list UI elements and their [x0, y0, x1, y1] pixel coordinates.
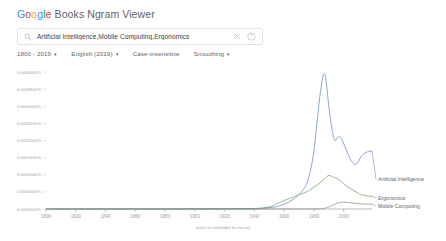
series-leader-line — [372, 204, 376, 206]
x-tick-label: 1960 — [279, 214, 290, 219]
page-title: Google Books Ngram Viewer — [17, 8, 155, 20]
y-tick-label: 0.0000000% — [17, 207, 41, 212]
help-circle-icon[interactable]: ? — [247, 32, 256, 41]
ngram-chart[interactable]: 0.0000000%0.0000500%0.0001000%0.0001500%… — [0, 66, 446, 241]
x-tick-label: 1860 — [130, 214, 141, 219]
y-tick-label: 0.0002000% — [17, 138, 41, 143]
chevron-down-icon: ▾ — [227, 52, 230, 57]
x-tick-label: 1900 — [190, 214, 201, 219]
corpus-selector[interactable]: English (2019) ▾ — [71, 50, 118, 57]
y-tick-label: 0.0004000% — [17, 70, 41, 75]
chevron-down-icon: ▾ — [54, 52, 57, 57]
x-tick-label: 1880 — [160, 214, 171, 219]
y-tick-label: 0.0001500% — [17, 155, 41, 160]
series-line[interactable] — [46, 175, 372, 209]
app-header: Google Books Ngram Viewer — [17, 8, 155, 20]
chart-canvas[interactable]: 0.0000000%0.0000500%0.0001000%0.0001500%… — [0, 66, 446, 241]
series-legend[interactable]: Artificial IntelligenceErgonomicsMobile … — [378, 176, 424, 209]
chart-hint-text: (click on line/label for focus) — [196, 225, 251, 230]
series-label[interactable]: Artificial Intelligence — [378, 176, 424, 182]
x-tick-label: 2000 — [339, 214, 350, 219]
x-tick-label: 1820 — [71, 214, 82, 219]
x-tick-label: 1940 — [249, 214, 260, 219]
date-range-selector[interactable]: 1800 - 2019 ▾ — [17, 50, 57, 57]
x-tick-label: 1840 — [100, 214, 111, 219]
series-leader-line — [372, 151, 376, 180]
series-label[interactable]: Mobile Computing — [378, 203, 420, 209]
y-tick-label: 0.0002500% — [17, 121, 41, 126]
corpus-label: English (2019) — [71, 50, 112, 57]
smoothing-label: Smoothing — [194, 50, 224, 57]
y-tick-label: 0.0003000% — [17, 104, 41, 109]
search-icon — [24, 33, 32, 41]
close-icon[interactable] — [234, 33, 241, 40]
case-sensitivity-toggle[interactable]: Case-insensitive — [133, 50, 180, 57]
google-logo: Google — [17, 8, 52, 20]
date-range-label: 1800 - 2019 — [17, 50, 51, 57]
series-lines[interactable] — [46, 74, 376, 209]
series-label[interactable]: Ergonomics — [378, 195, 406, 201]
y-tick-label: 0.0003500% — [17, 87, 41, 92]
x-axis: 1800182018401860188019001920194019601980… — [41, 209, 372, 219]
series-leader-line — [372, 196, 376, 198]
case-sensitivity-label: Case-insensitive — [133, 50, 180, 57]
svg-text:?: ? — [250, 34, 253, 39]
x-tick-label: 1980 — [309, 214, 320, 219]
page-title-rest: Books Ngram Viewer — [52, 8, 155, 20]
x-tick-label: 1800 — [41, 214, 52, 219]
y-axis: 0.0000000%0.0000500%0.0001000%0.0001500%… — [17, 70, 46, 212]
search-input[interactable] — [37, 33, 234, 40]
series-line[interactable] — [46, 202, 372, 209]
y-tick-label: 0.0001000% — [17, 172, 41, 177]
x-tick-label: 1920 — [220, 214, 231, 219]
options-row: 1800 - 2019 ▾ English (2019) ▾ Case-inse… — [17, 50, 244, 57]
chevron-down-icon: ▾ — [116, 52, 119, 57]
series-line[interactable] — [46, 74, 372, 209]
y-tick-label: 0.0000500% — [17, 189, 41, 194]
search-bar[interactable]: ? — [17, 28, 263, 45]
smoothing-selector[interactable]: Smoothing ▾ — [194, 50, 231, 57]
